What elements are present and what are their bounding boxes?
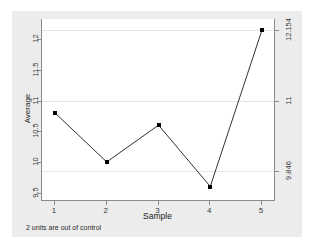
x-axis-tick-mark [261,201,262,205]
x-axis-tick-mark [209,201,210,205]
upper-control-limit-tick [275,30,279,31]
x-axis-tick-mark [54,201,55,205]
x-axis-tick-mark [158,201,159,205]
center-line-tick [275,101,279,102]
series-line [42,19,275,200]
plot-area [41,19,275,201]
data-point-marker [208,185,212,189]
x-axis-tick-label: 4 [194,206,224,215]
plot-inner [42,19,275,200]
lower-control-limit-label: 9.846 [284,156,293,186]
x-axis-tick-label: 3 [143,206,173,215]
data-point-marker [157,123,161,127]
lower-control-limit-tick [275,171,279,172]
y-axis-tick-label: 11.5 [31,56,40,82]
y-axis-tick-label: 11 [31,87,40,113]
y-axis-tick-label: 10 [31,148,40,174]
x-axis-tick-label: 5 [246,206,276,215]
out-of-control-annotation: 2 units are out of control [26,224,101,231]
y-axis-tick-label: 10.5 [31,118,40,144]
x-axis-tick-label: 2 [91,206,121,215]
data-point-marker [260,28,264,32]
data-point-marker [53,111,57,115]
x-axis-tick-label: 1 [39,206,69,215]
y-axis-tick-label: 9.5 [31,179,40,205]
control-chart-figure: Average Sample 2 units are out of contro… [0,0,314,250]
data-point-marker [105,160,109,164]
y-axis-tick-label: 12 [31,26,40,52]
center-line-label: 11 [284,85,293,115]
upper-control-limit-label: 12.154 [284,14,293,44]
right-axis-line [274,19,275,201]
x-axis-tick-mark [106,201,107,205]
